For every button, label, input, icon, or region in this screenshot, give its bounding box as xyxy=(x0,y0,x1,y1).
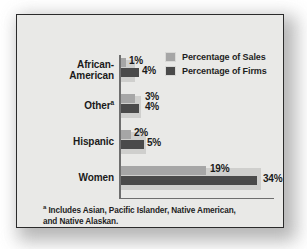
category-label-line1: Hispanic xyxy=(73,136,114,147)
category-label-line1: African- xyxy=(77,59,114,70)
category-label-hispanic: Hispanic xyxy=(42,136,114,147)
chart-screenshot: Percentage of Sales Percentage of Firms … xyxy=(0,0,307,249)
bars-women: 19% 34% xyxy=(121,165,277,193)
category-label-women: Women xyxy=(42,172,114,183)
category-label-line2: American xyxy=(69,70,114,81)
bar-group-women: Women 19% 34% xyxy=(41,165,277,193)
value-label-sales-hispanic: 2% xyxy=(134,127,148,138)
bar-firms-hispanic xyxy=(121,140,144,149)
bar-firms-other xyxy=(121,104,139,113)
value-label-sales-african-american: 1% xyxy=(129,55,143,66)
category-label-line1: Other xyxy=(84,100,110,111)
x-axis-line xyxy=(119,198,274,199)
bar-group-african-american: African- American 1% 4% xyxy=(41,57,277,85)
value-label-firms-women: 34% xyxy=(263,173,282,184)
bars-african-american: 1% 4% xyxy=(121,57,277,85)
bars-other: 3% 4% xyxy=(121,93,277,121)
bar-firms-african-american xyxy=(121,68,139,77)
value-label-firms-african-american: 4% xyxy=(142,65,156,76)
chart-footnote: a Includes Asian, Pacific Islander, Nati… xyxy=(43,205,273,227)
bar-group-other: Othera 3% 4% xyxy=(41,93,277,121)
value-label-firms-hispanic: 5% xyxy=(147,137,161,148)
bar-sales-hispanic xyxy=(121,130,131,139)
category-label-african-american: African- American xyxy=(42,59,114,81)
category-label-line1: Women xyxy=(79,172,114,183)
footnote-marker-icon: a xyxy=(110,99,114,106)
bars-hispanic: 2% 5% xyxy=(121,129,277,157)
footnote-line2: and Native Alaskan. xyxy=(43,217,118,226)
bar-sales-african-american xyxy=(121,58,126,67)
footnote-marker-icon: a xyxy=(43,204,46,210)
plot-area: African- American 1% 4% Othera xyxy=(41,55,277,200)
chart-panel: Percentage of Sales Percentage of Firms … xyxy=(16,14,284,228)
bar-group-hispanic: Hispanic 2% 5% xyxy=(41,129,277,157)
category-label-other: Othera xyxy=(42,100,114,111)
value-label-sales-women: 19% xyxy=(210,163,229,174)
footnote-line1: Includes Asian, Pacific Islander, Native… xyxy=(48,206,235,215)
bar-firms-women xyxy=(121,176,257,185)
bar-sales-other xyxy=(121,94,135,103)
value-label-firms-other: 4% xyxy=(145,101,159,112)
bar-sales-women xyxy=(121,166,206,175)
